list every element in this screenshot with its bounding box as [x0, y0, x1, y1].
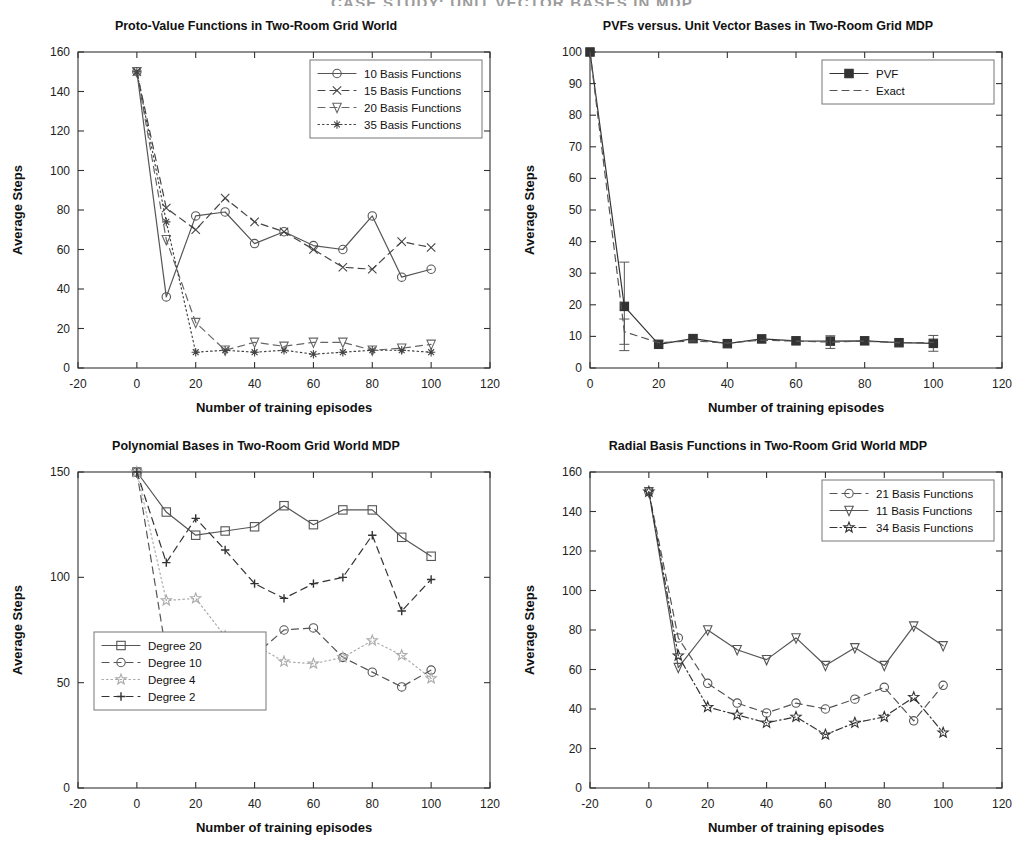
x-tick-label: 0: [134, 377, 141, 391]
y-tick-label: 60: [57, 243, 71, 257]
figure-grid: Proto-Value Functions in Two-Room Grid W…: [0, 10, 1024, 853]
y-tick-label: 160: [562, 465, 582, 479]
legend-item-label: 11 Basis Functions: [876, 505, 973, 517]
chart-proto-value-functions: Proto-Value Functions in Two-Room Grid W…: [0, 10, 512, 430]
x-tick-label: 20: [189, 797, 203, 811]
data-point-marker: [732, 710, 742, 720]
y-axis-label: Average Steps: [10, 585, 25, 675]
data-point-marker: [339, 573, 347, 581]
chart-legend: 10 Basis Functions15 Basis Functions20 B…: [310, 60, 482, 138]
data-point-marker: [192, 226, 200, 234]
data-point-marker: [368, 346, 376, 354]
data-point-marker: [250, 218, 258, 226]
legend-item-label: 20 Basis Functions: [364, 102, 461, 114]
data-point-marker: [192, 348, 200, 356]
legend-box: [822, 60, 994, 104]
x-axis-label: Number of training episodes: [708, 400, 884, 415]
y-tick-label: 160: [50, 45, 70, 59]
panel-proto-value-functions: Proto-Value Functions in Two-Room Grid W…: [0, 10, 512, 430]
x-tick-label: 60: [819, 797, 833, 811]
data-point-marker: [309, 579, 317, 587]
chart-legend: PVFExact: [822, 60, 994, 104]
x-tick-label: 80: [366, 377, 380, 391]
y-tick-label: 30: [569, 266, 583, 280]
y-tick-label: 80: [57, 203, 71, 217]
y-tick-label: 90: [569, 77, 583, 91]
y-tick-label: 20: [569, 742, 583, 756]
y-tick-label: 100: [50, 164, 70, 178]
x-axis-label: Number of training episodes: [708, 820, 884, 835]
legend-item-label: Degree 4: [148, 674, 196, 686]
data-point-marker: [909, 692, 919, 702]
x-tick-label: 20: [652, 377, 666, 391]
legend-item-label: Degree 20: [148, 640, 202, 652]
x-tick-label: -20: [581, 797, 599, 811]
series-line: [137, 472, 431, 611]
x-tick-label: 100: [933, 797, 953, 811]
data-point-marker: [368, 531, 376, 539]
plot-title: Proto-Value Functions in Two-Room Grid W…: [115, 19, 397, 33]
y-tick-label: 100: [562, 45, 582, 59]
panel-polynomial-bases: Polynomial Bases in Two-Room Grid World …: [0, 430, 512, 850]
data-point-marker: [791, 712, 801, 722]
x-tick-label: -20: [69, 797, 87, 811]
y-tick-label: 0: [575, 361, 582, 375]
y-tick-label: 20: [57, 322, 71, 336]
data-point-marker: [191, 593, 201, 603]
plot-title: Polynomial Bases in Two-Room Grid World …: [112, 439, 400, 453]
x-tick-label: 20: [189, 377, 203, 391]
x-tick-label: 40: [760, 797, 774, 811]
legend-item-label: 10 Basis Functions: [364, 68, 461, 80]
data-point-marker: [929, 339, 937, 347]
x-tick-label: 120: [480, 797, 500, 811]
x-axis-label: Number of training episodes: [196, 820, 372, 835]
y-axis-label: Average Steps: [522, 585, 537, 675]
legend-item-label: Degree 10: [148, 657, 202, 669]
data-point-marker: [309, 350, 317, 358]
data-point-marker: [221, 194, 229, 202]
y-tick-label: 50: [57, 676, 71, 690]
data-point-marker: [398, 237, 406, 245]
chart-legend: Degree 20Degree 10Degree 4Degree 2: [94, 632, 266, 710]
data-point-marker: [162, 218, 170, 226]
data-point-marker: [733, 699, 741, 707]
x-tick-label: 40: [721, 377, 735, 391]
y-tick-label: 100: [50, 570, 70, 584]
y-tick-label: 60: [569, 663, 583, 677]
x-tick-label: 100: [421, 797, 441, 811]
y-tick-label: 0: [63, 781, 70, 795]
legend-item-label: 21 Basis Functions: [876, 488, 973, 500]
data-point-marker: [398, 683, 406, 691]
data-point-marker: [398, 346, 406, 354]
data-point-marker: [280, 594, 288, 602]
y-axis-label: Average Steps: [522, 165, 537, 255]
data-point-marker: [880, 683, 888, 691]
y-tick-label: 80: [569, 108, 583, 122]
y-tick-label: 140: [562, 505, 582, 519]
x-tick-label: 120: [480, 377, 500, 391]
y-tick-label: 120: [562, 544, 582, 558]
chart-pvfs-versus-unit-vector: PVFs versus. Unit Vector Bases in Two-Ro…: [512, 10, 1024, 430]
panel-radial-basis-functions: Radial Basis Functions in Two-Room Grid …: [512, 430, 1024, 850]
data-point-marker: [279, 656, 289, 666]
data-point-marker: [723, 339, 731, 347]
y-tick-label: 50: [569, 203, 583, 217]
y-tick-label: 80: [569, 623, 583, 637]
x-tick-label: 0: [587, 377, 594, 391]
data-point-marker: [162, 558, 170, 566]
x-tick-label: 120: [992, 377, 1012, 391]
legend-marker: [333, 120, 341, 128]
x-tick-label: 80: [858, 377, 872, 391]
series-degree-2: [133, 468, 436, 615]
data-point-marker: [309, 245, 317, 253]
y-tick-label: 60: [569, 171, 583, 185]
error-bar: [619, 319, 629, 344]
chart-polynomial-bases: Polynomial Bases in Two-Room Grid World …: [0, 430, 512, 850]
panel-pvfs-versus-unit-vector: PVFs versus. Unit Vector Bases in Two-Ro…: [512, 10, 1024, 430]
x-tick-label: 20: [701, 797, 715, 811]
y-tick-label: 40: [569, 235, 583, 249]
data-point-marker: [280, 228, 288, 236]
legend-item-label: 35 Basis Functions: [364, 119, 461, 131]
data-point-marker: [221, 346, 229, 354]
x-tick-label: 60: [307, 797, 321, 811]
